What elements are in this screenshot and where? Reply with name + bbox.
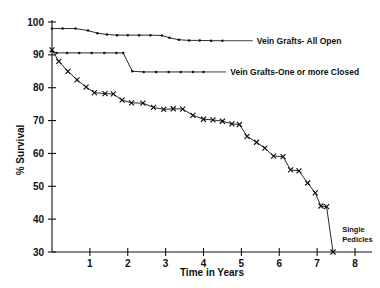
data-point-marker <box>178 38 181 41</box>
data-point-marker <box>116 34 119 37</box>
data-point-marker <box>87 29 90 32</box>
data-point-marker <box>190 113 195 118</box>
y-tick-label: 60 <box>33 148 45 159</box>
survival-chart: 30405060708090100 12345678 Vein Grafts- … <box>0 0 380 288</box>
data-point-marker <box>51 27 54 30</box>
x-axis-ticks: 12345678 <box>87 248 358 269</box>
data-point-marker <box>91 52 94 55</box>
series-labels-layer: Vein Grafts- All OpenVein Grafts-One or … <box>230 36 359 77</box>
x-tick-label: 6 <box>276 258 282 269</box>
y-tick-label: 30 <box>33 247 45 258</box>
series-layer <box>50 27 336 254</box>
y-tick-label: 50 <box>33 181 45 192</box>
x-tick-label: 3 <box>163 258 169 269</box>
data-point-marker <box>56 59 61 64</box>
series-2 <box>50 47 336 254</box>
data-point-marker <box>210 39 213 42</box>
annotations-layer: SinglePedicles <box>342 225 372 244</box>
x-tick-label: 7 <box>314 258 320 269</box>
x-tick-label: 8 <box>352 258 358 269</box>
data-point-marker <box>149 34 152 37</box>
series-label: Vein Grafts-One or more Closed <box>230 67 359 77</box>
data-point-marker <box>167 71 170 74</box>
y-tick-label: 90 <box>33 49 45 60</box>
data-point-marker <box>305 181 310 186</box>
data-point-marker <box>188 39 191 42</box>
data-point-marker <box>96 32 99 35</box>
y-tick-label: 70 <box>33 115 45 126</box>
y-tick-label: 40 <box>33 214 45 225</box>
data-point-marker <box>161 34 164 37</box>
series-label: Vein Grafts- All Open <box>257 36 342 46</box>
x-axis-title: Time in Years <box>180 267 245 278</box>
data-point-marker <box>120 98 125 103</box>
data-point-marker <box>245 134 250 139</box>
y-tick-label: 100 <box>27 17 44 28</box>
y-tick-label: 80 <box>33 82 45 93</box>
data-point-marker <box>66 52 69 55</box>
data-point-marker <box>65 69 70 74</box>
data-point-marker <box>254 140 259 145</box>
data-point-marker <box>192 71 195 74</box>
data-point-marker <box>198 39 201 42</box>
data-point-marker <box>155 71 158 74</box>
data-point-marker <box>168 37 171 40</box>
x-tick-label: 2 <box>125 258 131 269</box>
data-point-marker <box>74 77 79 82</box>
data-point-marker <box>103 52 106 55</box>
data-point-marker <box>313 190 318 195</box>
data-point-marker <box>131 70 134 73</box>
data-point-marker <box>122 52 125 55</box>
data-point-marker <box>115 52 118 55</box>
data-point-marker <box>142 71 145 74</box>
data-point-marker <box>84 85 89 90</box>
chart-canvas: 30405060708090100 12345678 Vein Grafts- … <box>0 0 380 288</box>
data-point-marker <box>127 34 130 37</box>
axes-group <box>52 20 372 252</box>
y-axis-title: % Survival <box>15 124 26 175</box>
series-0 <box>51 27 224 42</box>
data-point-marker <box>106 33 109 36</box>
data-point-marker <box>74 27 77 30</box>
x-tick-label: 1 <box>87 258 93 269</box>
data-point-marker <box>262 146 267 151</box>
data-point-marker <box>138 34 141 37</box>
series-curve <box>52 51 204 72</box>
series-curve <box>52 50 333 252</box>
data-point-marker <box>55 52 58 55</box>
annotation-text: Pedicles <box>342 235 372 244</box>
data-point-marker <box>78 52 81 55</box>
series-curve <box>52 29 222 41</box>
data-point-marker <box>61 27 64 30</box>
annotation-text: Single <box>342 225 365 234</box>
data-point-marker <box>180 71 183 74</box>
series-1 <box>51 50 205 74</box>
